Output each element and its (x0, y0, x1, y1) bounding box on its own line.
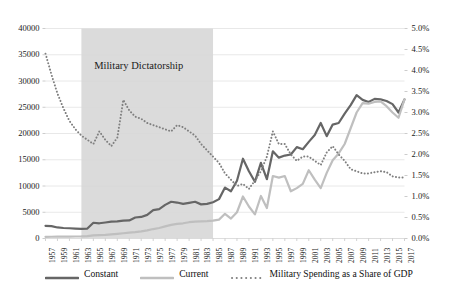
chart-container: 0500010000150002000025000300003500040000… (0, 0, 458, 292)
y-axis-tick-label: 30000 (0, 77, 40, 86)
secondary-y-axis-tick-label: 2.0% (412, 150, 430, 159)
chart-legend: ConstantCurrentMilitary Spending as a Sh… (0, 266, 458, 282)
x-axis-tick-label: 2017 (408, 247, 416, 262)
x-axis-tick-label: 1995 (276, 247, 284, 262)
x-axis-tick-label: 1959 (61, 247, 69, 262)
legend-item[interactable]: Current (140, 269, 208, 279)
x-axis-tick-label: 1965 (97, 247, 105, 262)
legend-swatch-line-icon (45, 269, 79, 279)
secondary-y-axis-tick-label: 3.5% (412, 87, 430, 96)
military-dictatorship-label: Military Dictatorship (94, 60, 183, 71)
x-axis-tick-label: 1977 (169, 247, 177, 262)
x-axis-tick-label: 1961 (73, 247, 81, 262)
x-axis-tick-label: 2011 (372, 248, 380, 263)
x-axis-tick-label: 1963 (85, 247, 93, 262)
x-axis-tick-label: 2003 (324, 247, 332, 262)
y-axis-tick-label: 0 (0, 234, 40, 243)
legend-swatch-dotted-icon (231, 269, 265, 279)
x-axis-tick-label: 1973 (145, 247, 153, 262)
x-axis-tick-label: 1987 (228, 247, 236, 262)
y-axis-tick-label: 10000 (0, 182, 40, 191)
x-axis-tick-label: 2009 (360, 247, 368, 262)
secondary-y-axis-tick-label: 3.0% (412, 108, 430, 117)
secondary-y-axis-tick-label: 2.5% (412, 129, 430, 138)
x-axis-tick-label: 2001 (312, 247, 320, 262)
legend-item[interactable]: Constant (45, 269, 118, 279)
legend-label: Current (179, 269, 208, 279)
x-axis-tick-label: 2007 (348, 247, 356, 262)
x-axis-tick-label: 1967 (109, 247, 117, 262)
x-axis-tick-label: 2013 (384, 247, 392, 262)
x-axis-tick-label: 1983 (204, 247, 212, 262)
y-axis-tick-label: 40000 (0, 24, 40, 33)
secondary-y-axis-tick-label: 4.5% (412, 45, 430, 54)
x-axis-tick-label: 1975 (157, 247, 165, 262)
x-axis-tick-label: 2015 (396, 247, 404, 262)
x-axis-tick-label: 1979 (181, 247, 189, 262)
secondary-y-axis-tick-label: 5.0% (412, 24, 430, 33)
y-axis-tick-label: 35000 (0, 50, 40, 59)
y-axis-tick-label: 20000 (0, 129, 40, 138)
legend-item[interactable]: Military Spending as a Share of GDP (231, 269, 413, 279)
x-axis-tick-label: 2005 (336, 247, 344, 262)
legend-label: Constant (84, 269, 118, 279)
x-axis-tick-label: 1981 (193, 247, 201, 262)
x-axis-tick-label: 1971 (133, 247, 141, 262)
y-axis-tick-label: 25000 (0, 103, 40, 112)
y-axis-tick-label: 5000 (0, 208, 40, 217)
legend-label: Military Spending as a Share of GDP (270, 269, 413, 279)
legend-swatch-line-icon (140, 269, 174, 279)
secondary-y-axis-tick-label: 1.5% (412, 171, 430, 180)
secondary-y-axis-tick-label: 4.0% (412, 66, 430, 75)
x-axis-tick-label: 1999 (300, 247, 308, 262)
secondary-y-axis-tick-label: 1.0% (412, 192, 430, 201)
x-axis-tick-label: 1989 (240, 247, 248, 262)
x-axis-tick-label: 1993 (264, 247, 272, 262)
x-axis-tick-label: 1957 (49, 247, 57, 262)
x-axis-tick-label: 1997 (288, 247, 296, 262)
secondary-y-axis-tick-label: 0.0% (412, 234, 430, 243)
secondary-y-axis-tick-label: 0.5% (412, 213, 430, 222)
x-axis-tick-label: 1969 (121, 247, 129, 262)
x-axis-tick-label: 1991 (252, 247, 260, 262)
y-axis-tick-label: 15000 (0, 155, 40, 164)
x-axis-tick-label: 1985 (216, 247, 224, 262)
